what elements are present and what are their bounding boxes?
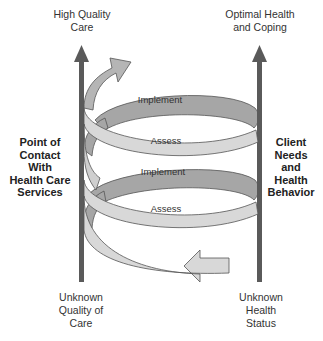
lower-assess-label: Assess: [151, 203, 182, 214]
upper-assess-label: Assess: [151, 135, 182, 146]
ribbon-top-arrow: [84, 58, 131, 110]
upper-implement-label: Implement: [138, 94, 183, 105]
right-axis-arrow: [252, 45, 267, 282]
lower-implement-label: Implement: [141, 166, 186, 177]
spiral-diagram: Implement Assess Implement Assess: [0, 0, 323, 341]
